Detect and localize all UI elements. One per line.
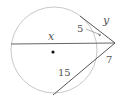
secant-through-diameter	[11, 43, 115, 44]
geometry-diagram: x y 5 7 15	[0, 0, 127, 98]
leader-arrowhead	[98, 34, 101, 37]
label-5: 5	[77, 23, 83, 34]
label-15: 15	[58, 67, 71, 78]
tangent-segment	[80, 16, 115, 43]
label-7: 7	[106, 54, 112, 65]
label-x: x	[48, 30, 55, 43]
center-dot	[51, 50, 54, 53]
circle	[11, 7, 97, 93]
label-y: y	[102, 14, 110, 27]
